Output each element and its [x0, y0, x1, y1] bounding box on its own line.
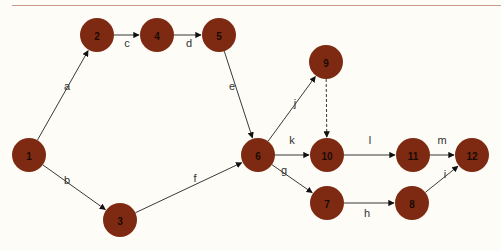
edge-label-j: j — [293, 97, 296, 109]
node-label: 12 — [466, 151, 478, 162]
edge-f — [135, 163, 241, 213]
node-label: 10 — [321, 151, 333, 162]
node-1: 1 — [12, 138, 46, 172]
edge-j — [268, 77, 315, 142]
node-5: 5 — [202, 18, 236, 52]
node-label: 3 — [117, 216, 123, 227]
edge-label-i: i — [444, 168, 446, 180]
node-4: 4 — [140, 18, 174, 52]
node-8: 8 — [395, 186, 429, 220]
node-label: 1 — [26, 151, 32, 162]
node-label: 2 — [94, 31, 100, 42]
edge-label-g: g — [281, 164, 287, 176]
edge-label-f: f — [193, 172, 197, 184]
nodes-layer: 124536910111278 — [12, 18, 489, 237]
node-12: 12 — [455, 138, 489, 172]
edge-e — [224, 51, 252, 138]
node-label: 6 — [255, 151, 261, 162]
node-label: 7 — [324, 199, 330, 210]
network-diagram: abcdefghijklm 124536910111278 — [0, 0, 501, 251]
edge-label-k: k — [289, 134, 295, 146]
node-label: 8 — [409, 199, 415, 210]
edge-label-b: b — [64, 174, 70, 186]
edge-label-a: a — [64, 80, 71, 92]
node-label: 4 — [154, 31, 160, 42]
node-7: 7 — [310, 186, 344, 220]
node-6: 6 — [241, 138, 275, 172]
edge-a — [37, 51, 88, 141]
node-label: 5 — [216, 31, 222, 42]
edges-layer: abcdefghijklm — [37, 35, 458, 219]
node-10: 10 — [310, 138, 344, 172]
node-label: 9 — [323, 58, 329, 69]
edge-b — [43, 165, 106, 210]
node-2: 2 — [80, 18, 114, 52]
node-11: 11 — [396, 138, 430, 172]
edge-label-e: e — [229, 80, 235, 92]
edge-label-m: m — [437, 134, 446, 146]
edge-g — [272, 165, 312, 193]
edge-label-h: h — [364, 207, 370, 219]
edge-i — [425, 166, 458, 192]
edge-label-l: l — [369, 134, 371, 146]
node-3: 3 — [103, 203, 137, 237]
edge-9-10-dummy — [326, 79, 327, 137]
node-9: 9 — [309, 45, 343, 79]
node-label: 11 — [408, 151, 419, 162]
edge-label-d: d — [186, 37, 192, 49]
edge-label-c: c — [124, 37, 130, 49]
